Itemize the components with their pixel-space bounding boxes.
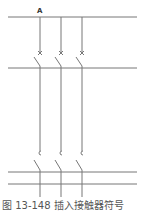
contactor-switch-blade xyxy=(34,160,40,170)
contactor-c-icon xyxy=(60,151,62,155)
phase-a-label: A xyxy=(37,8,42,15)
breaker-switch-blade xyxy=(76,57,82,66)
contactor-c-icon xyxy=(81,151,83,155)
breaker-switch-blade xyxy=(55,57,61,66)
contactor-switch-blade xyxy=(76,160,82,170)
phase-b-branch xyxy=(55,17,63,197)
phase-c-branch xyxy=(76,17,84,197)
contactor-c-icon xyxy=(39,151,41,155)
schematic-diagram xyxy=(0,0,146,211)
figure-caption: 图 13-148 插入接触器符号 xyxy=(0,200,146,211)
contactor-switch-blade xyxy=(55,160,61,170)
phase-a-branch xyxy=(34,17,42,197)
breaker-switch-blade xyxy=(34,57,40,66)
